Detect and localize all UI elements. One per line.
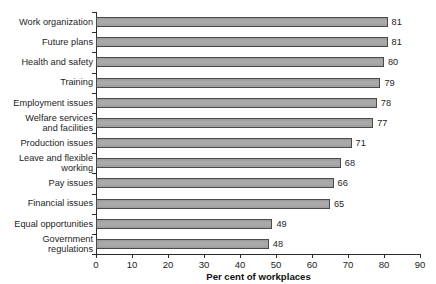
category-label: Welfare services and facilities [0,113,93,133]
x-axis-tick-label: 70 [333,259,363,270]
category-label: Employment issues [0,98,93,108]
category-label: Equal opportunities [0,219,93,229]
x-axis-tick-label: 90 [405,259,435,270]
category-axis-labels: Work organizationFuture plansHealth and … [0,12,93,254]
bar-value-label: 66 [338,178,348,188]
bar [96,138,352,148]
x-axis-tick-label: 0 [81,259,111,270]
bar [96,57,384,67]
x-axis-tick [132,254,133,258]
x-axis-tick [312,254,313,258]
bar-value-label: 79 [384,78,394,88]
category-label: Production issues [0,138,93,148]
x-axis-tick-label: 10 [117,259,147,270]
category-label: Future plans [0,37,93,47]
x-axis-tick [276,254,277,258]
plot-area: 818180797877716866654948 [96,12,420,254]
y-axis-tick [92,173,96,174]
bar [96,239,269,249]
bar [96,17,388,27]
y-axis-tick [92,194,96,195]
bar-chart: Work organizationFuture plansHealth and … [0,0,436,284]
bar-value-label: 78 [381,98,391,108]
x-axis-line [96,254,421,255]
y-axis-tick [92,133,96,134]
x-axis-tick-label: 40 [225,259,255,270]
category-label: Financial issues [0,198,93,208]
x-axis-tick [96,254,97,258]
bar-value-label: 71 [356,138,366,148]
category-label: Work organization [0,17,93,27]
x-axis-tick-label: 80 [369,259,399,270]
y-axis-tick [92,214,96,215]
bar-value-label: 49 [276,219,286,229]
x-axis-tick [168,254,169,258]
bar-value-label: 81 [392,17,402,27]
bar [96,158,341,168]
category-label: Health and safety [0,57,93,67]
x-axis-tick [384,254,385,258]
bar [96,178,334,188]
bar-value-label: 77 [377,118,387,128]
y-axis-tick [92,32,96,33]
category-label: Training [0,77,93,87]
bar [96,199,330,209]
y-axis-line [96,12,97,254]
y-axis-tick [92,52,96,53]
category-label: Government regulations [0,234,93,254]
x-axis-title: Per cent of workplaces [96,271,421,282]
x-axis-tick [204,254,205,258]
bar-value-label: 65 [334,199,344,209]
x-axis-tick [348,254,349,258]
bar [96,98,377,108]
bar-value-label: 80 [388,57,398,67]
bar [96,78,380,88]
category-label: Leave and flexible working [0,153,93,173]
bar [96,37,388,47]
bar-value-label: 81 [392,37,402,47]
x-axis-tick-label: 50 [261,259,291,270]
y-axis-tick [92,93,96,94]
y-axis-tick [92,234,96,235]
bar [96,118,373,128]
bar [96,219,272,229]
x-axis-tick-label: 60 [297,259,327,270]
x-axis-tick [240,254,241,258]
y-axis-tick [92,73,96,74]
x-axis-tick-label: 30 [189,259,219,270]
x-axis-tick [420,254,421,258]
y-axis-tick [92,12,96,13]
x-axis-tick-label: 20 [153,259,183,270]
bar-value-label: 48 [273,239,283,249]
y-axis-tick [92,153,96,154]
bar-value-label: 68 [345,158,355,168]
y-axis-tick [92,113,96,114]
category-label: Pay issues [0,178,93,188]
